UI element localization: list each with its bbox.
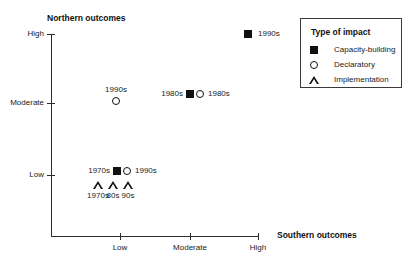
- x-tick-mark: [190, 233, 191, 240]
- y-tick-label: Moderate: [10, 99, 44, 107]
- y-tick-label: High: [28, 30, 44, 38]
- x-tick-label: Low: [113, 244, 128, 252]
- data-point-implementation-1970s[interactable]: [93, 181, 103, 189]
- data-point-label: 1990s: [105, 86, 127, 94]
- data-point-label: 1980s: [208, 90, 230, 98]
- x-axis-line: [51, 236, 259, 237]
- y-axis-line: [51, 34, 52, 237]
- y-tick-mark: [47, 103, 55, 104]
- data-point-label: 80s: [107, 192, 120, 200]
- data-point-label: 1980s: [161, 90, 183, 98]
- y-tick-mark: [47, 175, 55, 176]
- y-tick-mark: [47, 34, 55, 35]
- data-point-capacity-1970s-low[interactable]: [113, 167, 121, 175]
- data-point-label: 1970s: [88, 167, 110, 175]
- x-tick-label: Moderate: [173, 244, 207, 252]
- data-point-capacity-1980s-moderate[interactable]: [186, 90, 194, 98]
- y-axis-title: Northern outcomes: [47, 14, 125, 23]
- data-point-label: 1990s: [135, 167, 157, 175]
- capacity-building-square-icon: [310, 46, 318, 54]
- y-tick-label: Low: [29, 171, 44, 179]
- data-point-label: 90s: [122, 192, 135, 200]
- data-point-implementation-80s[interactable]: [108, 181, 118, 189]
- x-tick-mark: [120, 233, 121, 240]
- legend-label: Implementation: [334, 76, 389, 84]
- data-point-declaratory-1990s-low[interactable]: [123, 167, 131, 175]
- legend: Type of impact Capacity-buildingDeclarat…: [300, 18, 402, 88]
- data-point-declaratory-1980s-moderate[interactable]: [196, 90, 204, 98]
- legend-label: Declaratory: [334, 61, 375, 69]
- data-point-declaratory-1990s-moderate[interactable]: [112, 97, 120, 105]
- x-axis-title: Southern outcomes: [277, 231, 357, 240]
- legend-label: Capacity-building: [334, 46, 395, 54]
- data-point-label: 1990s: [258, 30, 280, 38]
- legend-row[interactable]: Capacity-building: [301, 43, 401, 57]
- data-point-capacity-1990s-high[interactable]: [244, 30, 252, 38]
- legend-row[interactable]: Implementation: [301, 73, 401, 87]
- implementation-triangle-icon: [309, 76, 319, 84]
- x-tick-mark: [258, 233, 259, 240]
- legend-title: Type of impact: [311, 28, 370, 37]
- scatter-chart: Northern outcomes Southern outcomes High…: [0, 0, 412, 268]
- declaratory-circle-icon: [310, 61, 318, 69]
- data-point-implementation-90s[interactable]: [123, 181, 133, 189]
- x-tick-label: High: [250, 244, 266, 252]
- legend-row[interactable]: Declaratory: [301, 58, 401, 72]
